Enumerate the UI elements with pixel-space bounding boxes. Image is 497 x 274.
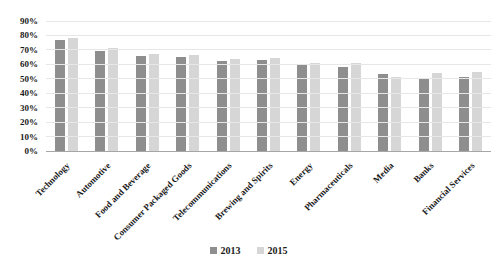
- y-axis-tick-label-20: 20%: [0, 117, 38, 127]
- legend-swatch-2013-icon: [210, 247, 217, 254]
- gridline-20: [46, 122, 491, 123]
- legend-label-2013: 2013: [221, 245, 241, 256]
- bar-2013-financial-services: [459, 77, 469, 151]
- bar-group-brewing-and-spirits: [248, 21, 288, 151]
- bar-chart: 0%10%20%30%40%50%60%70%80%90% Technology…: [0, 0, 497, 274]
- bar-group-food-and-beverage: [127, 21, 167, 151]
- gridline-10: [46, 136, 491, 137]
- y-axis-tick-label-0: 0%: [0, 146, 38, 156]
- bar-2015-media: [391, 77, 401, 151]
- bar-2015-telecommunications: [230, 59, 240, 151]
- bar-group-financial-services: [451, 21, 491, 151]
- gridline-60: [46, 64, 491, 65]
- bar-2015-technology: [68, 38, 78, 151]
- bar-group-pharmaceuticals: [329, 21, 369, 151]
- legend: 2013 2015: [0, 245, 497, 256]
- bar-group-technology: [46, 21, 86, 151]
- y-axis-tick-label-50: 50%: [0, 74, 38, 84]
- y-axis-tick-label-30: 30%: [0, 103, 38, 113]
- gridline-30: [46, 107, 491, 108]
- gridline-90: [46, 21, 491, 22]
- x-axis-line: [46, 151, 491, 152]
- y-axis-tick-label-10: 10%: [0, 132, 38, 142]
- gridline-70: [46, 49, 491, 50]
- gridline-50: [46, 78, 491, 79]
- bar-group-telecommunications: [208, 21, 248, 151]
- bar-groups: [46, 21, 491, 151]
- plot-area: [46, 21, 491, 151]
- bar-2013-media: [378, 74, 388, 151]
- y-axis-tick-label-80: 80%: [0, 30, 38, 40]
- bar-2015-banks: [432, 73, 442, 151]
- y-axis-tick-label-40: 40%: [0, 88, 38, 98]
- bar-group-energy: [289, 21, 329, 151]
- bar-2015-financial-services: [472, 72, 482, 151]
- bar-2013-technology: [55, 40, 65, 151]
- legend-swatch-2015-icon: [257, 247, 264, 254]
- y-axis-tick-label-70: 70%: [0, 45, 38, 55]
- y-axis-tick-label-90: 90%: [0, 16, 38, 26]
- bar-2013-telecommunications: [217, 61, 227, 151]
- bar-2013-banks: [419, 78, 429, 151]
- y-axis-tick-label-60: 60%: [0, 59, 38, 69]
- bar-2013-pharmaceuticals: [338, 67, 348, 151]
- legend-item-2015: 2015: [257, 245, 288, 256]
- gridline-80: [46, 35, 491, 36]
- bar-2013-brewing-and-spirits: [257, 60, 267, 151]
- bar-group-banks: [410, 21, 450, 151]
- gridline-40: [46, 93, 491, 94]
- legend-label-2015: 2015: [268, 245, 288, 256]
- bar-group-automotive: [86, 21, 126, 151]
- legend-item-2013: 2013: [210, 245, 241, 256]
- bar-group-consumer-packaged-goods: [167, 21, 207, 151]
- bar-group-media: [370, 21, 410, 151]
